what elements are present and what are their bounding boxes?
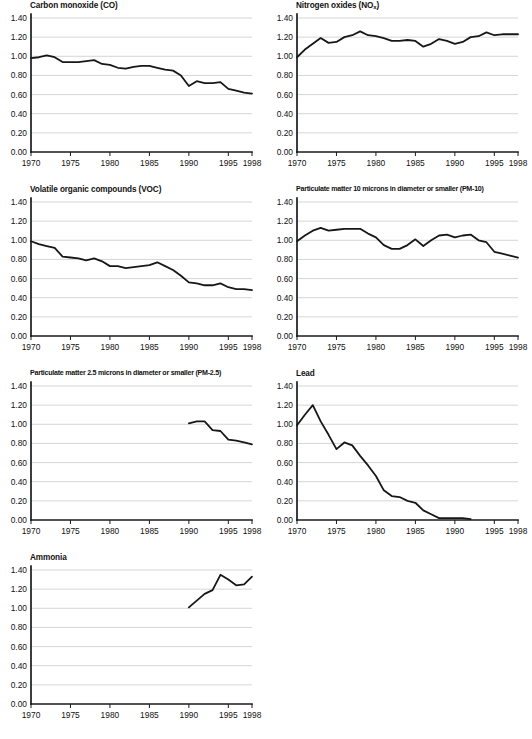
x-tick-label: 1990 — [180, 526, 199, 536]
y-tick-label: 0.20 — [11, 312, 28, 322]
x-tick-label: 1980 — [101, 526, 120, 536]
x-tick-label: 1985 — [140, 342, 159, 352]
x-tick-label: 1980 — [101, 342, 120, 352]
y-tick-label: 1.00 — [11, 419, 28, 429]
x-tick-label: 1985 — [140, 710, 159, 720]
y-tick-label: 0.20 — [277, 312, 294, 322]
plot-area-nh3: 0.000.200.400.600.801.001.201.4019701975… — [0, 552, 266, 737]
data-series-line-pm25 — [189, 421, 252, 444]
y-tick-label: 0.80 — [277, 70, 294, 80]
x-tick-label: 1998 — [509, 342, 528, 352]
y-tick-label: 1.00 — [277, 235, 294, 245]
y-tick-label: 1.20 — [277, 32, 294, 42]
y-tick-label: 0.00 — [11, 515, 28, 525]
x-tick-label: 1975 — [61, 710, 80, 720]
y-tick-label: 1.40 — [277, 197, 294, 207]
y-tick-label: 1.20 — [277, 400, 294, 410]
y-tick-label: 0.60 — [277, 274, 294, 284]
y-tick-label: 0.20 — [277, 496, 294, 506]
y-tick-label: 1.40 — [11, 13, 28, 23]
chart-panel-pm25: Particulate matter 2.5 microns in diamet… — [0, 368, 266, 553]
x-tick-label: 1980 — [367, 342, 386, 352]
plot-area-nox: 0.000.200.400.600.801.001.201.4019701975… — [266, 0, 532, 185]
x-tick-label: 1985 — [406, 526, 425, 536]
y-tick-label: 0.20 — [11, 496, 28, 506]
y-tick-label: 0.00 — [277, 331, 294, 341]
x-tick-label: 1995 — [219, 342, 238, 352]
x-tick-label: 1985 — [140, 526, 159, 536]
chart-panel-co: Carbon monoxide (CO)0.000.200.400.600.80… — [0, 0, 266, 185]
y-tick-label: 0.40 — [11, 109, 28, 119]
x-tick-label: 1995 — [485, 526, 504, 536]
x-tick-label: 1998 — [243, 710, 262, 720]
y-tick-label: 0.20 — [277, 128, 294, 138]
y-tick-label: 0.80 — [11, 622, 28, 632]
chart-panel-nh3: Ammonia0.000.200.400.600.801.001.201.401… — [0, 552, 266, 737]
x-tick-label: 1990 — [446, 342, 465, 352]
x-tick-label: 1985 — [140, 158, 159, 168]
y-tick-label: 1.20 — [11, 400, 28, 410]
y-tick-label: 0.80 — [277, 254, 294, 264]
x-tick-label: 1975 — [61, 342, 80, 352]
x-tick-label: 1975 — [327, 158, 346, 168]
x-tick-label: 1990 — [180, 158, 199, 168]
y-tick-label: 0.40 — [11, 293, 28, 303]
data-series-line-nh3 — [189, 575, 252, 608]
x-tick-label: 1995 — [219, 526, 238, 536]
y-tick-label: 0.80 — [11, 70, 28, 80]
x-tick-label: 1980 — [101, 158, 120, 168]
data-series-line-pm10 — [297, 228, 518, 258]
y-tick-label: 0.20 — [11, 128, 28, 138]
y-tick-label: 1.00 — [11, 235, 28, 245]
x-tick-label: 1995 — [485, 158, 504, 168]
plot-area-pm25: 0.000.200.400.600.801.001.201.4019701975… — [0, 368, 266, 553]
x-tick-label: 1975 — [327, 526, 346, 536]
x-tick-label: 1970 — [22, 158, 41, 168]
x-tick-label: 1985 — [406, 158, 425, 168]
x-tick-label: 1985 — [406, 342, 425, 352]
y-tick-label: 0.40 — [277, 293, 294, 303]
x-tick-label: 1998 — [243, 158, 262, 168]
y-tick-label: 0.60 — [11, 274, 28, 284]
y-tick-label: 0.00 — [11, 147, 28, 157]
x-tick-label: 1990 — [180, 342, 199, 352]
y-tick-label: 0.00 — [11, 699, 28, 709]
y-tick-label: 0.60 — [277, 90, 294, 100]
x-tick-label: 1990 — [180, 710, 199, 720]
x-tick-label: 1980 — [101, 710, 120, 720]
y-tick-label: 0.60 — [11, 90, 28, 100]
x-tick-label: 1975 — [61, 158, 80, 168]
y-tick-label: 0.60 — [11, 458, 28, 468]
y-tick-label: 1.40 — [277, 13, 294, 23]
y-tick-label: 1.40 — [277, 381, 294, 391]
y-tick-label: 1.40 — [11, 381, 28, 391]
x-tick-label: 1975 — [327, 342, 346, 352]
x-tick-label: 1970 — [22, 526, 41, 536]
y-tick-label: 1.20 — [11, 216, 28, 226]
y-tick-label: 0.00 — [277, 147, 294, 157]
y-tick-label: 1.40 — [11, 197, 28, 207]
x-tick-label: 1998 — [243, 526, 262, 536]
plot-area-co: 0.000.200.400.600.801.001.201.4019701975… — [0, 0, 266, 185]
y-tick-label: 0.20 — [11, 680, 28, 690]
x-tick-label: 1990 — [446, 158, 465, 168]
chart-panel-pm10: Particulate matter 10 microns in diamete… — [266, 184, 532, 369]
data-series-line-voc — [31, 241, 252, 290]
y-tick-label: 1.40 — [11, 565, 28, 575]
data-series-line-nox — [297, 31, 518, 57]
y-tick-label: 1.20 — [11, 32, 28, 42]
y-tick-label: 0.60 — [11, 642, 28, 652]
x-tick-label: 1980 — [367, 158, 386, 168]
plot-area-voc: 0.000.200.400.600.801.001.201.4019701975… — [0, 184, 266, 369]
plot-area-pm10: 0.000.200.400.600.801.001.201.4019701975… — [266, 184, 532, 369]
y-tick-label: 1.00 — [11, 603, 28, 613]
y-tick-label: 0.60 — [277, 458, 294, 468]
y-tick-label: 0.80 — [277, 438, 294, 448]
y-tick-label: 1.20 — [277, 216, 294, 226]
x-tick-label: 1995 — [219, 710, 238, 720]
x-tick-label: 1998 — [509, 158, 528, 168]
x-tick-label: 1990 — [446, 526, 465, 536]
y-tick-label: 1.00 — [277, 51, 294, 61]
x-tick-label: 1998 — [509, 526, 528, 536]
y-tick-label: 0.40 — [11, 477, 28, 487]
